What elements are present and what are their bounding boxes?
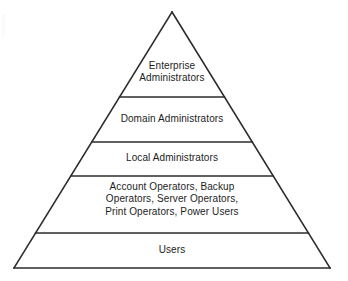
tier-line: Print Operators, Power Users (52, 206, 292, 218)
tier-line: Enterprise (96, 60, 248, 72)
tier-label-enterprise-administrators: Enterprise Administrators (96, 60, 248, 85)
tier-line: Users (82, 244, 262, 256)
tier-label-domain-administrators: Domain Administrators (82, 113, 262, 125)
tier-line: Account Operators, Backup (52, 181, 292, 193)
tier-label-local-administrators: Local Administrators (82, 152, 262, 164)
tier-line: Domain Administrators (82, 113, 262, 125)
tier-label-users: Users (82, 244, 262, 256)
tier-line: Administrators (96, 72, 248, 84)
tier-line: Operators, Server Operators, (52, 193, 292, 205)
pyramid-diagram: Enterprise Administrators Domain Adminis… (0, 0, 348, 281)
pyramid-shape (0, 0, 348, 281)
pyramid-body (14, 12, 330, 268)
tier-line: Local Administrators (82, 152, 262, 164)
tier-label-operators-and-power-users: Account Operators, Backup Operators, Ser… (52, 181, 292, 218)
